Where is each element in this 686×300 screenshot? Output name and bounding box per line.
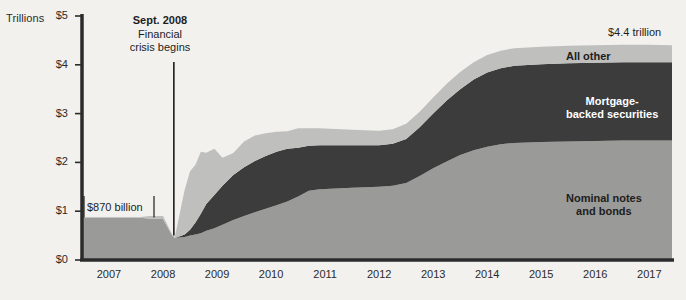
y-axis-tick-label: $3	[34, 107, 68, 119]
annotation-crisis-line1: Financial	[138, 28, 182, 40]
series-label-all-other: All other	[566, 50, 611, 63]
x-axis-tick-label: 2017	[627, 268, 671, 280]
annotation-end-value: $4.4 trillion	[608, 26, 661, 38]
y-axis-tick-label: $5	[34, 9, 68, 21]
series-label-mbs-line2: backed securities	[566, 108, 658, 120]
y-axis-tick-label: $0	[34, 253, 68, 265]
series-label-mortgage-backed-securities: Mortgage- backed securities	[566, 95, 658, 121]
x-axis-tick-label: 2013	[411, 268, 455, 280]
x-axis-tick-label: 2011	[303, 268, 347, 280]
series-label-mbs-line1: Mortgage-	[586, 95, 639, 107]
annotation-crisis-line2: crisis begins	[130, 41, 191, 53]
annotation-crisis-headline: Sept. 2008	[96, 14, 224, 28]
x-axis-tick-label: 2009	[195, 268, 239, 280]
y-axis-tick-label: $4	[34, 58, 68, 70]
x-axis-tick-label: 2010	[249, 268, 293, 280]
x-axis-tick-label: 2016	[573, 268, 617, 280]
annotation-financial-crisis: Sept. 2008 Financial crisis begins	[96, 14, 224, 55]
y-axis-tick-label: $1	[34, 204, 68, 216]
annotation-start-value: $870 billion	[86, 200, 146, 214]
x-axis-tick-label: 2007	[87, 268, 131, 280]
series-label-nominal-notes-and-bonds: Nominal notes and bonds	[566, 192, 642, 218]
stacked-area-chart: Trillions Sept. 2008 Financial crisis be…	[0, 0, 686, 300]
series-label-notes-line1: Nominal notes	[566, 192, 642, 204]
x-axis-tick-label: 2012	[357, 268, 401, 280]
x-axis-tick-label: 2008	[141, 268, 185, 280]
series-label-notes-line2: and bonds	[576, 205, 632, 217]
x-axis-tick-label: 2015	[519, 268, 563, 280]
y-axis-tick-label: $2	[34, 155, 68, 167]
x-axis-tick-label: 2014	[465, 268, 509, 280]
